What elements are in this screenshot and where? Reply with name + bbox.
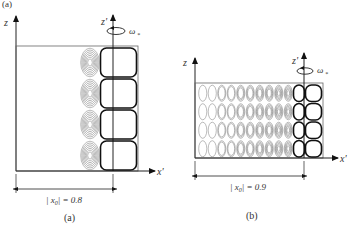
weak-vortex-contour <box>258 89 262 97</box>
weak-vortex-contour <box>218 85 226 101</box>
weak-vortex-contour <box>266 142 273 155</box>
weak-vortex-contour <box>267 145 271 153</box>
rotation-arrow-icon-b <box>297 68 313 74</box>
weak-vortex-contour <box>238 106 243 117</box>
panel-b: z x' z' ω * | x0| = 0.9 (b) <box>182 53 347 222</box>
weak-vortex-contour <box>237 105 244 118</box>
weak-vortex-contour <box>237 87 244 100</box>
weak-vortex-contour <box>81 48 100 77</box>
rotation-arrowhead-icon-a <box>110 26 114 30</box>
weak-vortex-contour <box>84 116 96 134</box>
weak-vortex-contour <box>285 87 292 100</box>
weak-vortex-contour <box>275 142 282 155</box>
weak-vortex-contour <box>256 124 263 137</box>
weak-vortex-contour <box>218 142 225 155</box>
strong-vortex-cell <box>294 141 305 158</box>
weak-vortex-contour <box>81 79 100 108</box>
strong-vortex-cell <box>306 85 322 102</box>
strong-vortex-cell <box>101 141 137 170</box>
weak-vortex-contour <box>238 88 243 99</box>
weak-vortex-contour <box>218 124 225 137</box>
caption-a: (a) <box>64 212 75 224</box>
weak-vortex-contour <box>88 121 93 128</box>
strong-vortex-cell <box>101 48 137 77</box>
rotation-subscript-a: * <box>137 32 140 38</box>
weak-vortex-contour <box>84 147 96 165</box>
weak-vortex-contour <box>88 59 93 66</box>
weak-vortex-contour <box>218 122 226 138</box>
strong-vortex-cell <box>294 122 305 139</box>
weak-vortex-contour <box>275 105 282 118</box>
weak-vortex-contour <box>237 124 244 137</box>
weak-vortex-contour <box>277 146 280 151</box>
weak-vortex-contour <box>228 105 235 118</box>
z-axis-label-b: z <box>182 57 187 68</box>
weak-vortex-contour <box>267 126 271 134</box>
strong-vortex-cell <box>101 110 137 139</box>
weak-vortex-contour <box>227 104 235 120</box>
xprime-axis-label-b: x' <box>339 153 347 164</box>
weak-vortex-contour <box>258 145 262 153</box>
weak-vortex-contour <box>256 142 263 155</box>
rotation-subscript-b: * <box>325 71 328 77</box>
weak-vortex-contour <box>248 125 253 136</box>
figure: (a) z x' z' ω * | x0| = 0.8 (a) z <box>0 0 356 231</box>
weak-vortex-contour <box>248 143 253 154</box>
weak-vortex-contour <box>208 141 216 157</box>
weak-vortex-contour <box>238 143 243 154</box>
strong-vortex-cell <box>294 85 305 102</box>
weak-vortex-contour <box>227 85 235 101</box>
weak-vortex-contour <box>287 109 290 114</box>
weak-vortex-contour <box>218 104 226 120</box>
weak-vortex-contour <box>267 108 271 116</box>
strong-vortex-cell <box>306 141 322 158</box>
zprime-axis-label-a: z' <box>100 16 108 27</box>
weak-vortex-contour <box>285 105 292 118</box>
weak-vortex-contour <box>208 85 216 101</box>
zprime-axis-label-b: z' <box>291 55 299 66</box>
x0-label-a: | x0| = 0.8 <box>46 195 83 206</box>
strong-vortex-cell <box>306 104 322 121</box>
weak-vortex-contour <box>199 141 207 157</box>
weak-vortex-contour <box>287 91 290 96</box>
weak-vortex-contour <box>277 128 280 133</box>
weak-vortex-contour <box>208 104 216 120</box>
weak-vortex-contour <box>277 109 280 114</box>
weak-vortex-contour <box>237 142 244 155</box>
weak-vortex-contour <box>227 122 235 138</box>
xprime-axis-label-a: x' <box>156 166 164 177</box>
strong-vortex-cell <box>101 79 137 108</box>
weak-vortex-contour <box>218 105 225 118</box>
caption-b: (b) <box>246 210 258 222</box>
weak-vortex-contour <box>258 126 262 134</box>
weak-vortex-contour <box>88 90 93 97</box>
weak-vortex-contour <box>287 128 290 133</box>
weak-vortex-contour <box>84 54 96 72</box>
weak-vortex-contour <box>267 89 271 97</box>
weak-vortex-contour <box>287 146 290 151</box>
weak-vortex-contour <box>247 142 254 155</box>
vortex-cells-b <box>199 85 322 157</box>
weak-vortex-contour <box>238 125 243 136</box>
rotation-label-b: ω <box>317 65 323 75</box>
weak-vortex-contour <box>228 142 235 155</box>
weak-vortex-contour <box>247 105 254 118</box>
weak-vortex-contour <box>248 106 253 117</box>
weak-vortex-contour <box>266 124 273 137</box>
strong-vortex-cell <box>294 104 305 121</box>
strong-vortex-cell <box>306 122 322 139</box>
weak-vortex-contour <box>247 87 254 100</box>
rotation-arrow-icon-a <box>107 28 125 35</box>
weak-vortex-contour <box>256 105 263 118</box>
weak-vortex-contour <box>199 85 207 101</box>
rotation-label-a: ω <box>129 26 135 36</box>
weak-vortex-contour <box>81 110 100 139</box>
weak-vortex-contour <box>247 124 254 137</box>
weak-vortex-contour <box>218 87 225 100</box>
weak-vortex-contour <box>275 124 282 137</box>
weak-vortex-contour <box>248 88 253 99</box>
weak-vortex-contour <box>81 141 100 170</box>
weak-vortex-contour <box>266 87 273 100</box>
figure-header-label: (a) <box>2 0 12 9</box>
weak-vortex-contour <box>277 91 280 96</box>
